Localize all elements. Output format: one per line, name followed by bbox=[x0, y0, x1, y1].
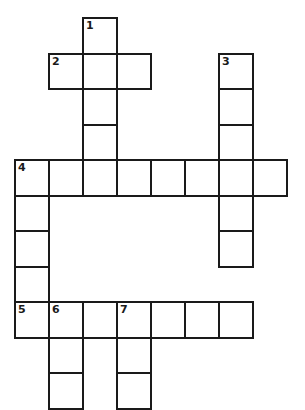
crossword-cell[interactable] bbox=[116, 159, 152, 197]
crossword-cell[interactable] bbox=[116, 337, 152, 375]
crossword-cell[interactable] bbox=[218, 159, 254, 197]
crossword-cell[interactable]: 3 bbox=[218, 53, 254, 91]
crossword-cell[interactable] bbox=[218, 124, 254, 162]
crossword-cell[interactable] bbox=[116, 53, 152, 91]
clue-number: 6 bbox=[52, 303, 60, 316]
crossword-cell[interactable] bbox=[218, 230, 254, 268]
crossword-cell[interactable] bbox=[252, 159, 288, 197]
crossword-cell[interactable] bbox=[82, 53, 118, 91]
crossword-cell[interactable] bbox=[14, 195, 50, 233]
crossword-cell[interactable] bbox=[48, 159, 84, 197]
crossword-cell[interactable] bbox=[116, 372, 152, 410]
crossword-cell[interactable]: 6 bbox=[48, 301, 84, 339]
clue-number: 7 bbox=[120, 303, 128, 316]
crossword-cell[interactable] bbox=[150, 301, 186, 339]
clue-number: 1 bbox=[86, 19, 94, 32]
crossword-cell[interactable] bbox=[82, 301, 118, 339]
crossword-cell[interactable] bbox=[82, 159, 118, 197]
crossword-cell[interactable] bbox=[48, 337, 84, 375]
crossword-cell[interactable] bbox=[150, 159, 186, 197]
crossword-cell[interactable] bbox=[218, 195, 254, 233]
clue-number: 5 bbox=[18, 303, 26, 316]
clue-number: 2 bbox=[52, 55, 60, 68]
crossword-cell[interactable]: 2 bbox=[48, 53, 84, 91]
crossword-cell[interactable] bbox=[48, 372, 84, 410]
clue-number: 4 bbox=[18, 161, 26, 174]
crossword-cell[interactable]: 7 bbox=[116, 301, 152, 339]
crossword-cell[interactable]: 4 bbox=[14, 159, 50, 197]
crossword-cell[interactable] bbox=[218, 88, 254, 126]
crossword-cell[interactable] bbox=[82, 124, 118, 162]
crossword-cell[interactable] bbox=[14, 266, 50, 304]
crossword-cell[interactable]: 1 bbox=[82, 17, 118, 55]
crossword-cell[interactable] bbox=[82, 88, 118, 126]
crossword-cell[interactable] bbox=[218, 301, 254, 339]
crossword-cell[interactable] bbox=[14, 230, 50, 268]
crossword-cell[interactable]: 5 bbox=[14, 301, 50, 339]
crossword-cell[interactable] bbox=[184, 301, 220, 339]
clue-number: 3 bbox=[222, 55, 230, 68]
crossword-cell[interactable] bbox=[184, 159, 220, 197]
